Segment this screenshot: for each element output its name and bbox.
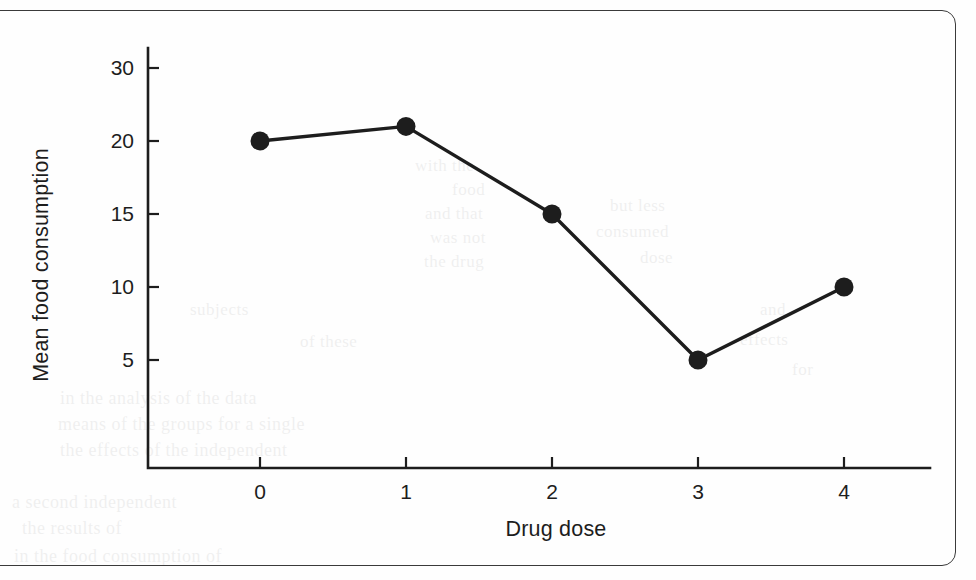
- data-point-marker: [397, 117, 416, 136]
- y-tick-label: 20: [111, 129, 134, 152]
- figure-page: with thefoodand thatwas notthe drugbut l…: [0, 0, 976, 580]
- x-tick-label: 3: [692, 480, 704, 503]
- y-axis-title: Mean food consumption: [29, 148, 53, 382]
- y-tick-label: 10: [111, 275, 134, 298]
- x-tick-label: 1: [400, 480, 412, 503]
- x-tick-label: 0: [254, 480, 266, 503]
- axis-lines: [148, 48, 930, 468]
- line-chart: 302015105 01234 Drug dose Mean food cons…: [0, 0, 976, 580]
- x-axis-tick-marks: [260, 457, 844, 468]
- data-point-marker: [543, 205, 562, 224]
- y-axis-tick-marks: [148, 68, 159, 360]
- data-point-marker: [251, 132, 270, 151]
- data-series-line: [260, 126, 844, 360]
- data-series-markers: [251, 117, 854, 370]
- x-tick-label: 4: [838, 480, 850, 503]
- y-tick-label: 15: [111, 202, 134, 225]
- data-point-marker: [835, 278, 854, 297]
- data-point-marker: [689, 351, 708, 370]
- x-tick-label: 2: [546, 480, 558, 503]
- x-axis-tick-labels: 01234: [254, 480, 850, 503]
- x-axis-title: Drug dose: [506, 517, 607, 541]
- y-tick-label: 5: [122, 348, 134, 371]
- y-tick-label: 30: [111, 56, 134, 79]
- y-axis-tick-labels: 302015105: [111, 56, 134, 371]
